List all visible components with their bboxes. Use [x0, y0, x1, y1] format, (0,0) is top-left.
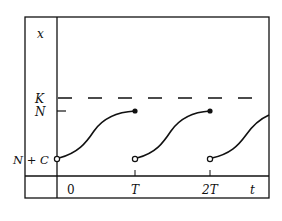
outer-frame	[25, 17, 269, 198]
y-axis-label: x	[37, 27, 44, 41]
x-tick-label-t: T	[131, 183, 140, 197]
k-label: K	[34, 92, 45, 106]
n-label: N	[34, 105, 46, 119]
filled-dot-end-2t	[207, 108, 212, 113]
open-circle-start-t	[132, 156, 137, 161]
x-tick-label-2t: 2T	[201, 183, 219, 197]
curve-segment-1	[59, 111, 135, 158]
sawtooth-logistic-diagram: x K N N + C 0 T 2T t	[0, 0, 282, 221]
x-axis-label: t	[250, 183, 255, 197]
open-circle-start-0	[54, 156, 59, 161]
x-tick-label-0: 0	[67, 183, 75, 197]
curve-segment-3	[212, 115, 269, 158]
open-circle-start-2t	[207, 156, 212, 161]
n-plus-c-label: N + C	[12, 153, 49, 167]
curve-segment-2	[137, 111, 210, 158]
filled-dot-end-t	[132, 108, 137, 113]
